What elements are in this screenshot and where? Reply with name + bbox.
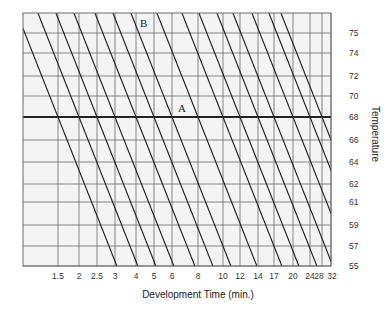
x-tick-label: 1.5	[52, 271, 64, 281]
x-tick-label: 8	[196, 271, 201, 281]
y-tick-label: 70	[349, 91, 359, 101]
x-tick-label: 20	[288, 271, 298, 281]
y-tick-label: 55	[349, 261, 359, 271]
y-axis-title: Temperature	[370, 106, 381, 163]
x-tick-label: 32	[327, 271, 337, 281]
y-tick-label: 64	[349, 157, 359, 167]
y-axis-ticks: 757472706866646261595755	[349, 28, 359, 271]
y-tick-label: 75	[349, 28, 359, 38]
marker-b: B	[140, 17, 147, 29]
x-tick-label: 10	[218, 271, 228, 281]
y-tick-label: 74	[349, 48, 359, 58]
x-axis-ticks: 1.522.5345681012141720242832	[52, 271, 337, 281]
x-tick-label: 17	[269, 271, 279, 281]
y-tick-label: 68	[349, 112, 359, 122]
y-tick-label: 57	[349, 241, 359, 251]
y-tick-label: 66	[349, 135, 359, 145]
marker-a: A	[178, 102, 186, 114]
x-axis-title: Development Time (min.)	[142, 289, 254, 300]
x-tick-label: 28	[314, 271, 324, 281]
y-tick-label: 59	[349, 220, 359, 230]
y-tick-label: 62	[349, 179, 359, 189]
x-tick-label: 12	[235, 271, 245, 281]
x-tick-label: 2.5	[91, 271, 103, 281]
x-tick-label: 4	[134, 271, 139, 281]
x-tick-label: 2	[77, 271, 82, 281]
chart: A B 1.522.5345681012141720242832 7574727…	[0, 0, 387, 317]
x-tick-label: 6	[170, 271, 175, 281]
plot-area	[23, 13, 331, 266]
x-tick-label: 3	[113, 271, 118, 281]
x-tick-label: 14	[253, 271, 263, 281]
y-tick-label: 72	[349, 71, 359, 81]
y-tick-label: 61	[349, 197, 359, 207]
x-tick-label: 5	[152, 271, 157, 281]
